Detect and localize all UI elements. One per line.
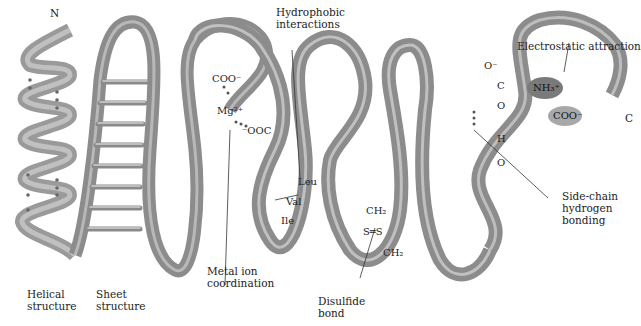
val-residue: Val (286, 196, 301, 207)
leu-residue: Leu (298, 176, 317, 187)
sheet-structure-label: Sheet structure (96, 288, 146, 312)
mg-ion: Mg²⁺ (217, 105, 243, 116)
coo-minus-ion: COO⁻ (553, 110, 582, 121)
disulfide-ss: S═S (363, 226, 383, 237)
ooc-minus: ⁻OOC (242, 125, 271, 136)
hydroxyl-o: O (497, 157, 505, 168)
carbonyl-c: C (497, 80, 505, 91)
ile-residue: Ile (281, 215, 294, 226)
ch2-bottom: CH₂ (383, 247, 403, 258)
helical-structure-label: Helical structure (27, 288, 77, 312)
metal-ion-coordination-label: Metal ion coordination (207, 265, 274, 289)
electrostatic-attraction-label: Electrostatic attraction (517, 40, 641, 52)
ch2-top: CH₂ (366, 205, 386, 216)
hydroxyl-h: H (497, 133, 506, 144)
nh3-plus: NH₃⁺ (533, 82, 560, 93)
side-chain-hbond-label: Side-chain hydrogen bonding (562, 190, 618, 226)
c-terminus-label: C (625, 112, 633, 124)
o-minus: O⁻ (484, 60, 497, 71)
n-terminus-label: N (50, 7, 59, 19)
carbonyl-o: O (497, 100, 505, 111)
alpha-helix (22, 30, 75, 255)
hydrophobic-interactions-label: Hydrophobic interactions (276, 6, 345, 30)
coo-minus-top: COO⁻ (212, 73, 241, 84)
disulfide-bond-label: Disulfide bond (318, 295, 365, 319)
